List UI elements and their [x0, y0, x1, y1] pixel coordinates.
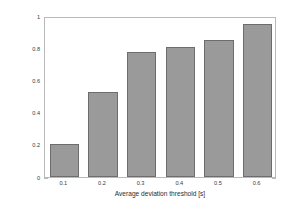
- bar: [204, 40, 233, 177]
- y-tick-label: 1: [0, 15, 40, 21]
- y-tick-label: 0.4: [0, 111, 40, 117]
- x-tick-label: 0.3: [126, 181, 156, 187]
- x-tick-label: 0.2: [87, 181, 117, 187]
- x-tick-label: 0.1: [48, 181, 78, 187]
- y-tick-label: 0.6: [0, 79, 40, 85]
- bar: [166, 47, 195, 177]
- y-tick-label: 0.8: [0, 47, 40, 53]
- x-axis-label: Average deviation threshold [s]: [44, 191, 276, 198]
- bar-chart-figure: 1 0.8 0.6 0.4 0.2 0 0.1 0.2 0.3 0.: [0, 0, 292, 211]
- x-tick-label: 0.5: [203, 181, 233, 187]
- plot-area: [44, 17, 276, 178]
- bar: [88, 92, 117, 177]
- bar: [243, 24, 272, 177]
- x-tick-label: 0.4: [164, 181, 194, 187]
- y-tick-mark-right: [272, 178, 276, 179]
- y-tick-label: 0.2: [0, 143, 40, 149]
- y-tick-label: 0: [0, 176, 40, 182]
- bars-layer: [45, 18, 275, 177]
- y-tick-mark: [44, 178, 48, 179]
- bar: [127, 52, 156, 177]
- x-tick-label: 0.6: [242, 181, 272, 187]
- bar: [50, 144, 79, 177]
